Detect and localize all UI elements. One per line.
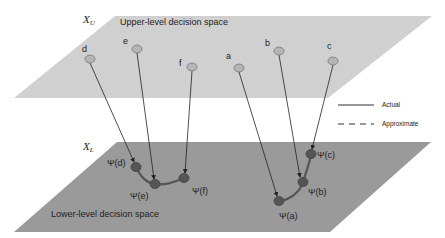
upper-plane bbox=[14, 16, 432, 98]
svg-text:Ψ(a): Ψ(a) bbox=[279, 211, 298, 221]
svg-text:Ψ(c): Ψ(c) bbox=[317, 150, 335, 160]
upper-plane-label: Upper-level decision space bbox=[120, 17, 228, 27]
legend: Actual Approximate bbox=[338, 101, 419, 128]
upper-plane-symbol: XU bbox=[82, 13, 96, 27]
svg-text:e: e bbox=[123, 36, 128, 46]
svg-text:a: a bbox=[226, 51, 231, 61]
svg-text:Ψ(b): Ψ(b) bbox=[308, 187, 327, 197]
svg-text:Ψ(f): Ψ(f) bbox=[192, 186, 208, 196]
svg-text:b: b bbox=[265, 38, 270, 48]
svg-text:Ψ(e): Ψ(e) bbox=[130, 191, 149, 201]
svg-text:Actual: Actual bbox=[382, 101, 401, 108]
svg-text:Ψ(d): Ψ(d) bbox=[107, 158, 126, 168]
lower-plane-symbol: XL bbox=[82, 140, 94, 154]
bilevel-diagram: XU Upper-level decision space XL Lower-l… bbox=[0, 0, 445, 238]
svg-text:d: d bbox=[82, 44, 87, 54]
svg-text:c: c bbox=[327, 41, 332, 51]
lower-plane-label: Lower-level decision space bbox=[51, 209, 159, 219]
svg-text:Approximate: Approximate bbox=[382, 120, 419, 128]
